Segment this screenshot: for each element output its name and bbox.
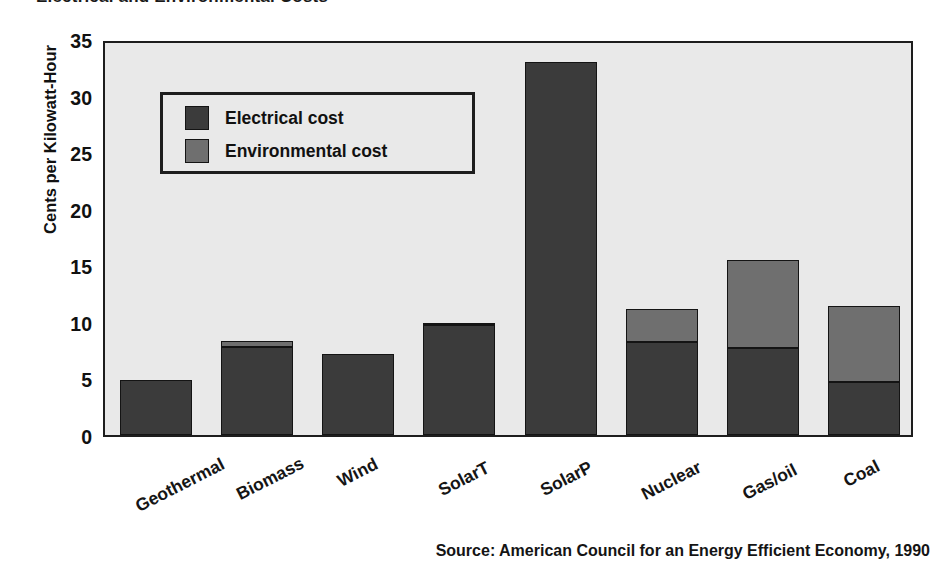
bar-segment-environmental[interactable]	[727, 260, 799, 348]
y-axis-tick-label: 30	[38, 86, 92, 109]
legend-label-electrical: Electrical cost	[225, 108, 344, 129]
y-axis-tick-label: 35	[38, 30, 92, 53]
bar-segment-environmental[interactable]	[423, 323, 495, 325]
legend-item-environmental: Environmental cost	[185, 139, 387, 163]
bar-segment-electrical[interactable]	[626, 342, 698, 435]
bar-segment-electrical[interactable]	[828, 382, 900, 435]
chart-legend: Electrical cost Environmental cost	[160, 92, 475, 174]
bar-segment-electrical[interactable]	[525, 62, 597, 435]
legend-swatch-environmental-icon	[185, 139, 209, 163]
y-axis-tick-label: 20	[38, 199, 92, 222]
x-axis-tick-label: Biomass	[233, 452, 308, 504]
y-axis-tick-label: 25	[38, 143, 92, 166]
x-axis-tick-label: SolarT	[435, 457, 493, 500]
x-axis-tick-label: Gas/oil	[739, 459, 801, 504]
bar-segment-electrical[interactable]	[221, 347, 293, 435]
y-axis-tick-label: 15	[38, 256, 92, 279]
bar-group[interactable]	[727, 39, 799, 435]
legend-label-environmental: Environmental cost	[225, 141, 387, 162]
bar-group[interactable]	[525, 39, 597, 435]
source-note: Source: American Council for an Energy E…	[436, 542, 930, 560]
x-axis-tick-label: Coal	[840, 456, 883, 492]
bar-segment-environmental[interactable]	[626, 309, 698, 342]
bar-segment-electrical[interactable]	[423, 325, 495, 435]
y-axis-tick-label: 0	[38, 426, 92, 449]
bar-segment-electrical[interactable]	[120, 380, 192, 435]
bar-segment-electrical[interactable]	[322, 354, 394, 435]
x-axis-tick-label: Nuclear	[638, 456, 705, 504]
chart-title: Electrical and Environmental Costs	[36, 0, 328, 7]
y-axis-tick-label: 5	[38, 369, 92, 392]
x-axis-tick-label: Geothermal	[132, 454, 228, 517]
x-axis-tick-label: SolarP	[537, 456, 596, 500]
bar-group[interactable]	[828, 39, 900, 435]
legend-swatch-electrical-icon	[185, 106, 209, 130]
y-axis-tick-label: 10	[38, 312, 92, 335]
x-axis-tick-label: Wind	[334, 454, 381, 492]
legend-item-electrical: Electrical cost	[185, 106, 344, 130]
bar-segment-environmental[interactable]	[221, 341, 293, 347]
bar-group[interactable]	[626, 39, 698, 435]
bar-segment-electrical[interactable]	[727, 348, 799, 435]
bar-segment-environmental[interactable]	[828, 306, 900, 382]
